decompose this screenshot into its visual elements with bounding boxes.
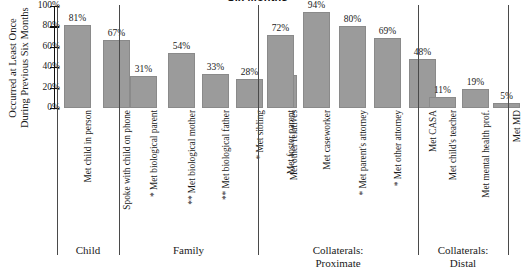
- category-label: * Met biological parent: [149, 110, 159, 230]
- category-label: * Met other attorney: [393, 110, 403, 230]
- group-label: Family: [119, 244, 258, 257]
- bar: [130, 76, 157, 108]
- bar-value-label: 19%: [454, 77, 498, 87]
- bar-value-label: 67%: [95, 28, 139, 38]
- group-label: Collaterals:Proximate: [258, 244, 418, 269]
- group-labels: ChildFamilyCollaterals:ProximateCollater…: [0, 240, 515, 280]
- group-label: Collaterals:Distal: [418, 244, 508, 269]
- category-labels: Met child in personSpoke with child on p…: [54, 110, 509, 235]
- category-label: ** Met biological father: [221, 110, 231, 230]
- group-label-line1: Collaterals:: [258, 244, 418, 257]
- category-label: Met child in person: [83, 110, 93, 230]
- bar-value-label: 69%: [366, 26, 410, 36]
- bar-value-label: 72%: [259, 23, 303, 33]
- group-divider: [508, 5, 509, 255]
- bar: [339, 26, 366, 108]
- category-label: Met MD: [512, 110, 522, 230]
- group-divider: [418, 5, 419, 255]
- bar: [374, 38, 401, 108]
- bar-value-label: 94%: [295, 0, 339, 10]
- bar: [303, 12, 330, 108]
- group-label-line1: Collaterals:: [418, 244, 508, 257]
- category-label: Met CASA: [428, 110, 438, 230]
- chart-title: Six Months: [0, 0, 515, 3]
- category-label: Met foster parent: [286, 110, 296, 230]
- bar-value-label: 81%: [56, 13, 100, 23]
- group-divider: [258, 5, 259, 255]
- category-label: * Met parent's attorney: [358, 110, 368, 230]
- group-divider: [119, 5, 120, 255]
- bar: [202, 74, 229, 108]
- bar: [429, 97, 456, 108]
- bar: [64, 25, 91, 108]
- bar-value-label: 54%: [160, 41, 204, 51]
- bar-value-label: 5%: [485, 91, 525, 101]
- bar: [493, 103, 520, 108]
- y-axis-ticks: 0%20%40%60%80%100%: [0, 0, 60, 130]
- plot-area: 81%67%31%54%33%28%32%72%94%80%69%48%11%1…: [54, 6, 509, 108]
- group-label: Child: [57, 244, 119, 257]
- group-divider: [57, 5, 58, 255]
- bar: [168, 53, 195, 108]
- group-label-line2: Distal: [418, 257, 508, 270]
- bar-value-label: 31%: [122, 64, 166, 74]
- category-label: Met caseworker: [322, 110, 332, 230]
- bar: [267, 35, 294, 108]
- category-label: Met child's teacher: [448, 110, 458, 230]
- category-label: Met mental health prof.: [481, 110, 491, 230]
- group-label-line2: Proximate: [258, 257, 418, 270]
- group-label-line1: Family: [119, 244, 258, 257]
- category-label: * Met sibling: [255, 110, 265, 230]
- bar-value-label: 48%: [401, 47, 445, 57]
- category-label: ** Met biological mother: [187, 110, 197, 230]
- group-label-line1: Child: [57, 244, 119, 257]
- bar-value-label: 80%: [331, 14, 375, 24]
- category-label: Spoke with child on phone: [122, 110, 132, 230]
